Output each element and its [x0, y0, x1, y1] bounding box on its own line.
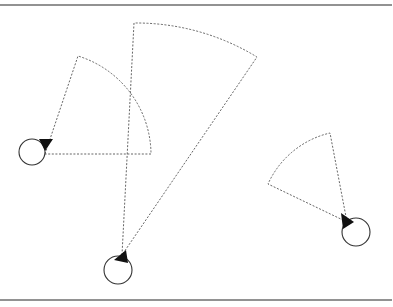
field-of-view-sector-2: [122, 23, 257, 255]
agent-3: [341, 213, 370, 246]
agent-layer: [19, 139, 370, 284]
agent-1: [19, 139, 53, 165]
fov-layer: [45, 23, 347, 255]
diagram-canvas: [0, 0, 393, 307]
field-of-view-sector-3: [268, 133, 347, 222]
agent-2: [104, 250, 132, 284]
field-of-view-sector-1: [45, 56, 151, 154]
